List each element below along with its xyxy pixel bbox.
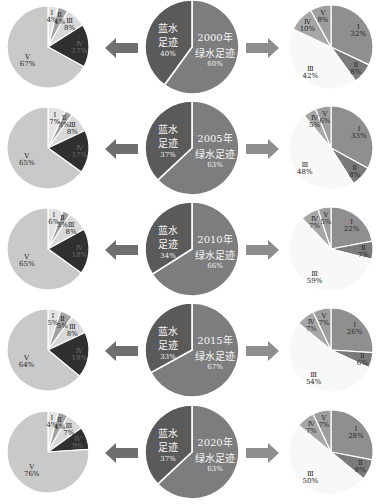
blue-water-composition-pie: Ⅰ7%Ⅱ3%Ⅲ8%Ⅳ17%Ⅴ65% [7, 107, 89, 189]
slice-value-label: 6% [319, 117, 330, 125]
value-label: 66% [207, 262, 223, 270]
slice-label-blue-water: 蓝水足迹37% [158, 428, 178, 463]
arrow-left-icon [105, 240, 138, 260]
value-label: 34% [160, 252, 176, 260]
slice-value-label: 8% [64, 24, 75, 32]
green-water-composition-pie: Ⅰ26%Ⅱ6%Ⅲ54%Ⅳ7%Ⅴ7% [289, 308, 373, 392]
slice-value-label: 8% [350, 68, 361, 76]
slice-value-label: 67% [20, 60, 36, 68]
year-label: 2015年 [197, 334, 232, 346]
slice-value-label: 7% [318, 319, 329, 327]
category-label-line: 足迹 [158, 36, 178, 48]
total-pie: 蓝水足迹37%2020年绿水足迹63% [145, 405, 239, 499]
category-label-line: 绿水足迹 [195, 350, 235, 362]
category-label-line: 绿水足迹 [195, 148, 235, 160]
slice-value-label: 32% [351, 30, 367, 38]
category-label-line: 足迹 [158, 339, 178, 351]
arrow-right-icon [246, 443, 279, 463]
value-label: 40% [160, 50, 176, 58]
slice-value-label: 42% [303, 72, 319, 80]
year-label: 2005年 [197, 132, 232, 144]
slice-value-label: 5% [57, 322, 68, 330]
slice-value-label: 18% [72, 251, 88, 259]
value-label: 33% [160, 353, 176, 361]
category-label-line: 绿水足迹 [195, 249, 235, 261]
category-label-line: 绿水足迹 [195, 452, 235, 464]
slice-value-label: 6% [357, 359, 368, 367]
year-label: 2010年 [197, 233, 232, 245]
value-label: 37% [160, 455, 176, 463]
arrow-left-icon [105, 341, 138, 361]
arrow-right-icon [246, 38, 279, 58]
blue-water-composition-pie: Ⅰ4%Ⅱ4%Ⅲ8%Ⅳ17%Ⅴ67% [7, 6, 89, 88]
value-label: 60% [207, 60, 223, 68]
slice-value-label: 9% [72, 442, 83, 450]
slice-value-label: 5% [320, 218, 331, 226]
slice-value-label: 22% [344, 225, 360, 233]
green-water-composition-pie: Ⅰ22%Ⅱ7%Ⅲ59%Ⅳ7%Ⅴ5% [289, 207, 373, 291]
slice-value-label: 8% [355, 466, 366, 474]
slice-value-label: 10% [300, 25, 316, 33]
slice-label-blue-water: 蓝水足迹37% [158, 124, 178, 159]
water-footprint-pie-grid: Ⅰ4%Ⅱ4%Ⅲ8%Ⅳ17%Ⅴ67%蓝水足迹40%2000年绿水足迹60%Ⅰ32%… [0, 0, 380, 504]
arrow-left-icon [105, 38, 138, 58]
slice-value-label: 8% [317, 16, 328, 24]
slice-value-label: 8% [67, 128, 78, 136]
slice-value-label: 17% [72, 47, 88, 55]
slice-label-blue-water: 蓝水足迹33% [158, 326, 178, 361]
slice-value-label: 33% [351, 132, 367, 140]
slice-value-label: 7% [63, 429, 74, 437]
slice-value-label: 7% [306, 427, 317, 435]
blue-water-composition-pie: Ⅰ4%Ⅱ4%Ⅲ7%Ⅳ9%Ⅴ76% [7, 411, 89, 493]
slice-value-label: 17% [72, 151, 88, 159]
total-pie: 蓝水足迹40%2000年绿水足迹60% [145, 0, 239, 94]
slice-value-label: 7% [306, 325, 317, 333]
category-label-line: 蓝水 [158, 428, 178, 439]
slice-value-label: 54% [306, 378, 322, 386]
category-label-line: 蓝水 [158, 23, 178, 34]
slice-value-label: 59% [307, 277, 323, 285]
slice-value-label: 8% [349, 171, 360, 179]
slice-value-label: 64% [19, 361, 35, 369]
slice-value-label: 8% [67, 330, 78, 338]
slice-value-label: 18% [72, 354, 88, 362]
arrow-left-icon [105, 443, 138, 463]
total-pie: 蓝水足迹37%2005年绿水足迹63% [145, 101, 239, 195]
green-water-composition-pie: Ⅰ32%Ⅱ8%Ⅲ42%Ⅳ10%Ⅴ8% [289, 5, 373, 89]
slice-value-label: 26% [347, 328, 363, 336]
slice-value-label: 76% [24, 470, 40, 478]
total-pie: 蓝水足迹34%2010年绿水足迹66% [145, 202, 239, 296]
category-label-line: 蓝水 [158, 225, 178, 236]
slice-value-label: 7% [358, 251, 369, 259]
category-label-line: 绿水足迹 [195, 47, 235, 59]
arrow-right-icon [246, 341, 279, 361]
slice-value-label: 28% [348, 432, 364, 440]
category-label-line: 足迹 [158, 441, 178, 453]
value-label: 67% [207, 363, 223, 371]
slice-label-blue-water: 蓝水足迹34% [158, 225, 178, 260]
slice-label-blue-water: 蓝水足迹40% [158, 23, 178, 58]
value-label: 63% [207, 465, 223, 473]
arrow-right-icon [246, 139, 279, 159]
category-label-line: 足迹 [158, 137, 178, 149]
total-pie: 蓝水足迹33%2015年绿水足迹67% [145, 303, 239, 397]
category-label-line: 蓝水 [158, 326, 178, 337]
slice-value-label: 50% [303, 477, 319, 485]
value-label: 37% [160, 151, 176, 159]
blue-water-composition-pie: Ⅰ6%Ⅱ3%Ⅲ8%Ⅳ18%Ⅴ65% [7, 208, 89, 290]
green-water-composition-pie: Ⅰ28%Ⅱ8%Ⅲ50%Ⅳ7%Ⅴ7% [289, 410, 373, 494]
category-label-line: 足迹 [158, 238, 178, 250]
slice-value-label: 48% [297, 168, 313, 176]
slice-value-label: 8% [65, 228, 76, 236]
green-water-composition-pie: Ⅰ33%Ⅱ8%Ⅲ48%Ⅳ5%Ⅴ6% [289, 106, 373, 190]
arrow-right-icon [246, 240, 279, 260]
arrow-left-icon [105, 139, 138, 159]
water-footprint-figure: Ⅰ4%Ⅱ4%Ⅲ8%Ⅳ17%Ⅴ67%蓝水足迹40%2000年绿水足迹60%Ⅰ32%… [0, 0, 380, 504]
slice-value-label: 7% [318, 421, 329, 429]
slice-value-label: 65% [19, 159, 35, 167]
value-label: 63% [207, 161, 223, 169]
year-label: 2000年 [197, 31, 232, 43]
year-label: 2020年 [197, 436, 232, 448]
category-label-line: 蓝水 [158, 124, 178, 135]
slice-value-label: 7% [309, 222, 320, 230]
